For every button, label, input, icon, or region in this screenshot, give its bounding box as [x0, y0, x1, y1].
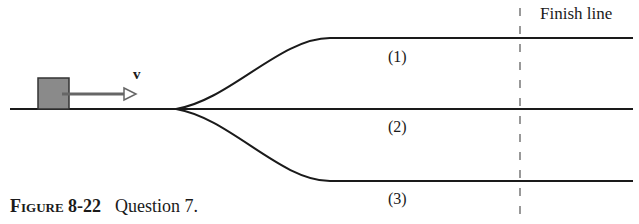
finish-line-label: Finish line	[540, 4, 612, 24]
track-diagram	[0, 0, 639, 224]
path-3-label: (3)	[388, 190, 407, 208]
path-1-label: (1)	[388, 48, 407, 66]
path-2-label: (2)	[388, 118, 407, 136]
figure-caption: Figure 8-22Question 7.	[10, 196, 198, 217]
figure-number: Figure 8-22	[10, 196, 101, 216]
caption-text: Question 7.	[115, 196, 198, 216]
velocity-label: v	[133, 66, 141, 83]
velocity-arrow-head-icon	[124, 88, 136, 100]
